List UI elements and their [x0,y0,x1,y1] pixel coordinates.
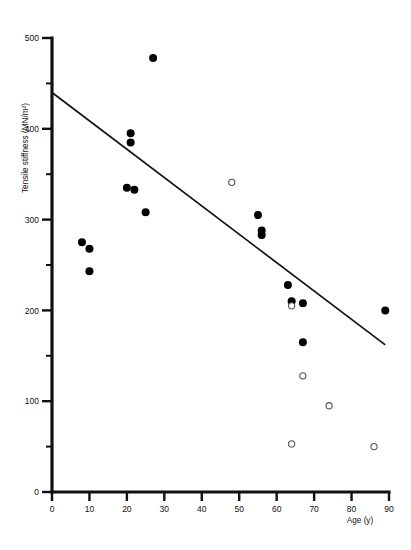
x-tick-label: 70 [309,504,319,514]
data-point-open [371,444,377,450]
y-tick-label: 100 [25,396,39,406]
x-tick-label: 90 [384,504,394,514]
data-point-filled [258,231,266,239]
y-axis-tick-labels: 0100200300400500 [25,33,39,497]
y-tick-label: 0 [34,487,39,497]
y-tick-label: 500 [25,33,39,43]
fit-line-group [52,92,385,344]
y-axis-title: Tensile stiffness (MN/m²) [21,103,30,193]
data-point-filled [254,211,262,219]
data-point-open [229,179,235,185]
x-tick-label: 80 [347,504,357,514]
regression-line [52,92,385,344]
x-tick-label: 20 [122,504,132,514]
x-tick-label: 50 [234,504,244,514]
x-tick-label: 60 [272,504,282,514]
data-point-filled [85,245,93,253]
data-point-open [289,303,295,309]
data-point-filled [85,267,93,275]
x-tick-label: 40 [197,504,207,514]
x-axis-tick-labels: 0102030405060708090 [50,504,394,514]
axes-group [52,38,389,492]
data-point-filled [127,138,135,146]
x-axis-title: Age (y) [347,516,374,525]
data-point-filled [123,184,131,192]
y-tick-label: 200 [25,306,39,316]
data-series-open [229,179,377,449]
data-point-filled [130,186,138,194]
y-tick-label: 300 [25,215,39,225]
data-point-open [326,403,332,409]
data-point-filled [284,281,292,289]
x-tick-label: 30 [160,504,170,514]
data-series-filled [78,54,389,346]
x-tick-label: 10 [85,504,95,514]
x-tick-label: 0 [50,504,55,514]
scatter-chart-figure: 0100200300400500 0102030405060708090 Ten… [0,0,411,550]
chart-canvas: 0100200300400500 0102030405060708090 Ten… [0,0,411,550]
data-point-open [300,373,306,379]
data-point-filled [381,306,389,314]
data-point-filled [299,338,307,346]
data-point-filled [299,299,307,307]
data-point-filled [149,54,157,62]
data-point-filled [142,208,150,216]
data-point-filled [127,129,135,137]
data-point-open [289,441,295,447]
data-point-filled [78,238,86,246]
